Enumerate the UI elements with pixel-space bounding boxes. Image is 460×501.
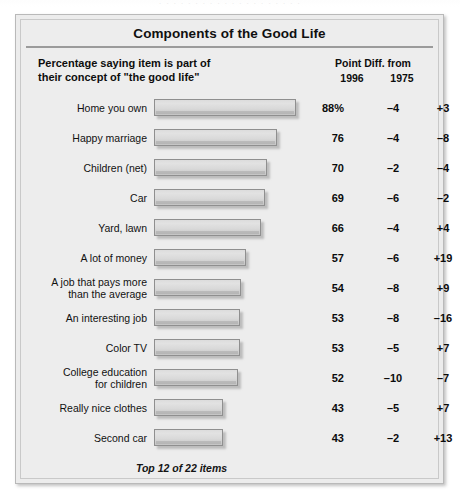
- bar: [154, 429, 223, 446]
- row-label: Children (net): [21, 162, 154, 174]
- row-label: Car: [21, 192, 154, 204]
- chart-row: A lot of money57–6+19: [21, 243, 438, 273]
- row-label: Really nice clothes: [21, 402, 154, 414]
- bar-track: [154, 123, 306, 153]
- bar-value-label: 53: [306, 312, 344, 324]
- row-label: College education for children: [21, 366, 154, 390]
- bar-value-label: 57: [306, 252, 344, 264]
- chart-row: College education for children52–10–7: [21, 363, 438, 393]
- bar-chart-rows: Home you own88%–4+3Happy marriage76–4–8C…: [21, 89, 438, 453]
- bar-value-label: 88%: [306, 102, 344, 114]
- bar-track: [154, 183, 306, 213]
- bar: [154, 249, 246, 266]
- diff-1975-value: +7: [426, 342, 460, 354]
- diff-1975-value: +3: [426, 102, 460, 114]
- bar-value-label: 43: [306, 432, 344, 444]
- header-year-columns: 1996 1975: [327, 71, 419, 86]
- diff-1996-value: –8: [376, 312, 410, 324]
- chart-row: Happy marriage76–4–8: [21, 123, 438, 153]
- chart-row: Children (net)70–2–4: [21, 153, 438, 183]
- bar-value-label: 52: [306, 372, 344, 384]
- row-label: A job that pays more than the average: [21, 276, 154, 300]
- diff-1975-value: –2: [426, 192, 460, 204]
- bar-track: [154, 393, 306, 423]
- diff-1975-value: +7: [426, 402, 460, 414]
- diff-1996-value: –4: [376, 132, 410, 144]
- diff-1975-value: –7: [426, 372, 460, 384]
- row-label: Yard, lawn: [21, 222, 154, 234]
- bar-track: [154, 153, 306, 183]
- bar: [154, 189, 265, 206]
- chart-row: Color TV53–5+7: [21, 333, 438, 363]
- diff-1996-value: –2: [376, 432, 410, 444]
- chart-footnote: Top 12 of 22 items: [21, 453, 438, 474]
- diff-1996-value: –6: [376, 192, 410, 204]
- chart-row: An interesting job53–8–16: [21, 303, 438, 333]
- bar-value-label: 70: [306, 162, 344, 174]
- header-col-1996: 1996: [335, 72, 369, 86]
- chart-row: Home you own88%–4+3: [21, 93, 438, 123]
- diff-1975-value: +13: [426, 432, 460, 444]
- chart-row: Really nice clothes43–5+7: [21, 393, 438, 423]
- row-label: A lot of money: [21, 252, 154, 264]
- bar-track: [154, 243, 306, 273]
- diff-1975-value: +9: [426, 282, 460, 294]
- bar-value-label: 53: [306, 342, 344, 354]
- scan-top-sliver: · · · · · · · · · · · · · · · · · · · ·: [0, 0, 460, 7]
- bar-track: [154, 273, 306, 303]
- row-label: Home you own: [21, 102, 154, 114]
- chart-row: Second car43–2+13: [21, 423, 438, 453]
- bar: [154, 129, 277, 146]
- bar-value-label: 66: [306, 222, 344, 234]
- diff-1996-value: –8: [376, 282, 410, 294]
- row-label: Happy marriage: [21, 132, 154, 144]
- chart-row: A job that pays more than the average54–…: [21, 273, 438, 303]
- bar: [154, 279, 241, 296]
- header-description: Percentage saying item is part of their …: [21, 57, 327, 84]
- chart-panel-inner: Components of the Good Life Percentage s…: [20, 19, 439, 479]
- row-label: Color TV: [21, 342, 154, 354]
- bar-track: [154, 213, 306, 243]
- header-description-line1: Percentage saying item is part of: [38, 57, 327, 71]
- diff-1975-value: –4: [426, 162, 460, 174]
- bar: [154, 99, 296, 116]
- chart-row: Yard, lawn66–4+4: [21, 213, 438, 243]
- bar: [154, 339, 240, 356]
- row-label: An interesting job: [21, 312, 154, 324]
- bar-value-label: 69: [306, 192, 344, 204]
- bar-track: [154, 333, 306, 363]
- bar-value-label: 43: [306, 402, 344, 414]
- row-label: Second car: [21, 432, 154, 444]
- header-point-diff-title: Point Diff. from: [327, 57, 419, 71]
- chart-row: Car69–6–2: [21, 183, 438, 213]
- bar: [154, 399, 223, 416]
- bar-track: [154, 423, 306, 453]
- header-col-1975: 1975: [385, 72, 419, 86]
- bar-track: [154, 363, 306, 393]
- diff-1996-value: –5: [376, 342, 410, 354]
- bar: [154, 309, 240, 326]
- header-point-diff: Point Diff. from 1996 1975: [327, 57, 438, 85]
- diff-1996-value: –2: [376, 162, 410, 174]
- bar-track: [154, 303, 306, 333]
- bar: [154, 219, 261, 236]
- column-headers: Percentage saying item is part of their …: [21, 48, 438, 89]
- diff-1996-value: –5: [376, 402, 410, 414]
- diff-1975-value: +4: [426, 222, 460, 234]
- bar-track: [154, 93, 306, 123]
- bar: [154, 369, 238, 386]
- header-description-line2: their concept of "the good life": [38, 71, 327, 85]
- chart-panel: Components of the Good Life Percentage s…: [15, 14, 444, 484]
- diff-1996-value: –4: [376, 222, 410, 234]
- bar: [154, 159, 267, 176]
- bar-value-label: 54: [306, 282, 344, 294]
- diff-1996-value: –4: [376, 102, 410, 114]
- diff-1996-value: –10: [376, 372, 410, 384]
- diff-1975-value: –8: [426, 132, 460, 144]
- diff-1975-value: –16: [426, 312, 460, 324]
- diff-1996-value: –6: [376, 252, 410, 264]
- page-title: Components of the Good Life: [21, 20, 438, 46]
- bar-value-label: 76: [306, 132, 344, 144]
- diff-1975-value: +19: [426, 252, 460, 264]
